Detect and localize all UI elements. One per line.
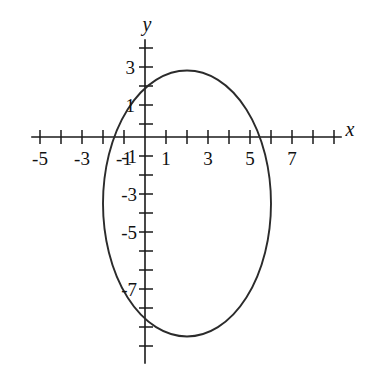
graph-figure: -5 -3 -1 1 3 5 7 3 1 -1 -3 -5 -7 x y	[0, 0, 369, 370]
x-tick-label-7: 7	[287, 148, 297, 169]
y-tick-label-1: 1	[126, 95, 136, 116]
y-tick-label--1: -1	[121, 146, 137, 167]
y-tick-label--7: -7	[121, 279, 137, 300]
y-tick-label--3: -3	[121, 184, 137, 205]
x-tick-label-1: 1	[161, 148, 171, 169]
x-tick-label--3: -3	[74, 148, 90, 169]
x-tick-label-5: 5	[245, 148, 255, 169]
x-tick-label--5: -5	[32, 148, 48, 169]
coordinate-plot: -5 -3 -1 1 3 5 7 3 1 -1 -3 -5 -7 x y	[0, 0, 369, 370]
y-tick-label--5: -5	[121, 222, 137, 243]
y-tick-label-3: 3	[126, 57, 136, 78]
x-axis-label: x	[345, 118, 355, 140]
x-tick-label-3: 3	[203, 148, 213, 169]
y-axis-label: y	[141, 13, 152, 36]
